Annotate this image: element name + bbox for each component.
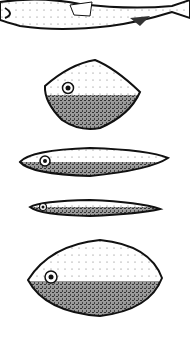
lure-diamond: [40, 55, 150, 135]
lure-oval: [25, 235, 170, 321]
lure-slim: [25, 198, 165, 219]
illustration: [0, 0, 190, 340]
lure-long: [15, 145, 175, 182]
fish-top: [0, 0, 190, 29]
